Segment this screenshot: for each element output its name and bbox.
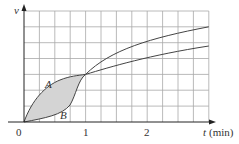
origin-label: 0 [16,126,22,138]
chart-canvas: v 0 1 2 t (min) A B [0,0,239,144]
x-axis-unit: (min) [209,126,234,139]
x-axis-label: t [203,126,207,138]
y-axis-label: v [14,4,19,16]
curve-b-label: B [60,109,67,121]
x-tick-1: 1 [83,126,89,138]
x-tick-2: 2 [144,126,150,138]
curve-a-label: A [44,78,52,90]
x-axis-arrow-icon [209,120,216,125]
y-axis-arrow-icon [22,4,27,11]
